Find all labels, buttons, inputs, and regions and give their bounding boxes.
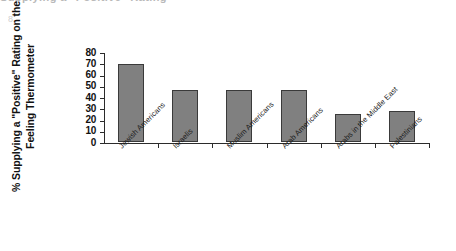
y-axis-tick: 80 <box>100 53 105 54</box>
y-axis-tick: 10 <box>100 132 105 133</box>
y-axis-tick: 30 <box>100 109 105 110</box>
y-axis-tick: 20 <box>100 121 105 122</box>
y-axis-title: % Supplying a "Positive" Rating on the F… <box>10 0 37 193</box>
y-axis-title-container: % Supplying a "Positive" Rating on the F… <box>10 0 76 196</box>
x-axis-labels: Jewish AmericansIsraelisMuslim Americans… <box>104 144 456 214</box>
y-axis-tick-label: 70 <box>85 58 96 69</box>
y-axis-tick-label: 60 <box>85 69 96 80</box>
y-axis-tick-label: 80 <box>85 47 96 58</box>
y-axis-tick-label: 30 <box>85 103 96 114</box>
y-axis-tick: 50 <box>100 87 105 88</box>
y-axis-tick-label: 10 <box>85 125 96 136</box>
y-axis-tick-label: 40 <box>85 92 96 103</box>
y-axis-tick-label: 0 <box>91 137 96 148</box>
y-axis-tick-label: 50 <box>85 80 96 91</box>
y-axis-tick: 60 <box>100 76 105 77</box>
y-axis-tick: 40 <box>100 98 105 99</box>
y-axis-tick-label: 20 <box>85 114 96 125</box>
y-axis-tick: 70 <box>100 64 105 65</box>
bar-chart-figure: Supplying a "Positive" Rating 8. % Suppl… <box>0 0 456 251</box>
